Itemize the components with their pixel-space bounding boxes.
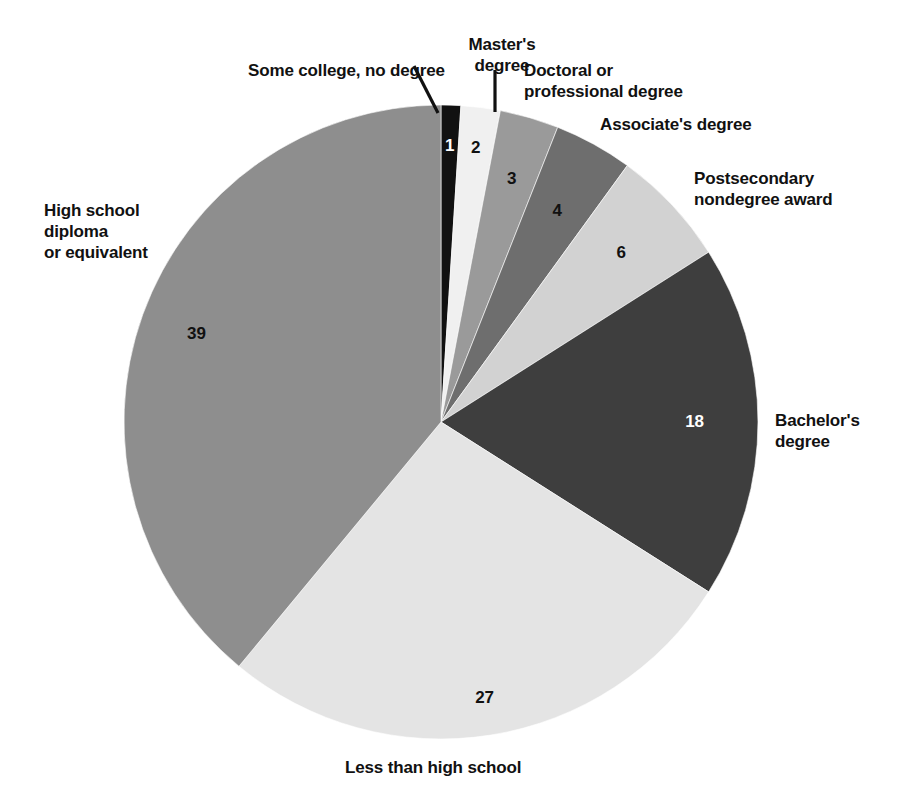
label-associates-degree: Associate's degree (600, 114, 840, 135)
label-doctoral-or-professional-degree: Doctoral or professional degree (524, 60, 744, 102)
label-postsecondary-nondegree-award: Postsecondary nondegree award (694, 168, 904, 210)
label-less-than-high-school: Less than high school (345, 757, 595, 778)
label-bachelors-degree: Bachelor's degree (775, 410, 905, 452)
label-high-school-diploma-or-equivalent: High school diploma or equivalent (44, 200, 244, 263)
pie-chart-figure: Some college, no degree Master's degree … (0, 0, 914, 798)
